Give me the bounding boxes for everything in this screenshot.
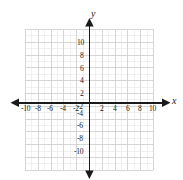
y-tick-label-neg8: -8 bbox=[77, 135, 83, 143]
x-axis-arrow-left bbox=[11, 99, 20, 107]
x-axis-name: x bbox=[172, 96, 176, 106]
x-tick-label-pos2: 2 bbox=[100, 105, 104, 113]
y-tick-label-pos8: 8 bbox=[80, 52, 84, 60]
y-tick-label-pos6: 6 bbox=[80, 65, 84, 73]
y-axis-arrow-bottom bbox=[85, 171, 93, 180]
y-tick-label-neg6: -6 bbox=[77, 122, 83, 130]
x-tick-label-neg10: -10 bbox=[21, 105, 30, 113]
x-tick-label-pos6: 6 bbox=[126, 105, 130, 113]
x-tick-label-neg6: -6 bbox=[47, 105, 53, 113]
x-tick-label-neg8: -8 bbox=[35, 105, 41, 113]
y-tick-label-neg10: -10 bbox=[74, 148, 83, 156]
x-axis-arrow-right bbox=[162, 99, 171, 107]
graph-canvas bbox=[0, 0, 183, 179]
x-tick-label-pos4: 4 bbox=[113, 105, 117, 113]
y-tick-label-neg4: -4 bbox=[77, 110, 83, 118]
x-tick-label-neg4: -4 bbox=[60, 105, 66, 113]
x-tick-label-pos8: 8 bbox=[138, 105, 142, 113]
y-axis-name: y bbox=[91, 9, 95, 19]
y-tick-label-pos10: 10 bbox=[77, 39, 84, 47]
x-tick-label-pos10: 10 bbox=[149, 105, 156, 113]
y-tick-label-pos2: 2 bbox=[80, 90, 84, 98]
coordinate-plane-figure: y x -10 -8 -6 -4 -2 2 4 6 8 10 10 8 6 4 … bbox=[0, 0, 183, 179]
y-tick-label-pos4: 4 bbox=[80, 77, 84, 85]
y-axis-arrow-top bbox=[85, 18, 93, 27]
